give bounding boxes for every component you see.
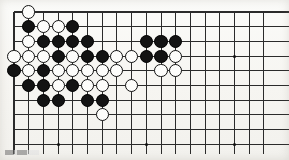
star-point	[233, 143, 236, 146]
star-point	[57, 143, 60, 146]
black-stone[interactable]	[7, 64, 20, 77]
white-stone[interactable]	[7, 50, 20, 63]
star-point	[145, 143, 148, 146]
black-stone[interactable]	[52, 35, 65, 48]
white-stone[interactable]	[52, 64, 65, 77]
white-stone[interactable]	[154, 64, 167, 77]
black-stone[interactable]	[96, 94, 109, 107]
white-stone[interactable]	[37, 50, 50, 63]
black-stone[interactable]	[52, 50, 65, 63]
black-stone[interactable]	[81, 94, 94, 107]
black-stone[interactable]	[37, 94, 50, 107]
white-stone[interactable]	[66, 50, 79, 63]
black-stone[interactable]	[37, 35, 50, 48]
black-stone[interactable]	[96, 50, 109, 63]
white-stone[interactable]	[22, 50, 35, 63]
black-stone[interactable]	[140, 35, 153, 48]
black-stone[interactable]	[52, 94, 65, 107]
white-stone[interactable]	[52, 20, 65, 33]
black-stone[interactable]	[37, 79, 50, 92]
caption-smudge	[5, 150, 39, 155]
star-point	[233, 55, 236, 58]
go-board-figure	[0, 0, 289, 160]
black-stone[interactable]	[154, 35, 167, 48]
black-stone[interactable]	[140, 50, 153, 63]
black-stone[interactable]	[81, 50, 94, 63]
white-stone[interactable]	[81, 79, 94, 92]
black-stone[interactable]	[154, 50, 167, 63]
white-stone[interactable]	[96, 79, 109, 92]
white-stone[interactable]	[169, 50, 182, 63]
black-stone[interactable]	[81, 35, 94, 48]
white-stone[interactable]	[22, 5, 35, 18]
white-stone[interactable]	[52, 79, 65, 92]
white-stone[interactable]	[125, 50, 138, 63]
